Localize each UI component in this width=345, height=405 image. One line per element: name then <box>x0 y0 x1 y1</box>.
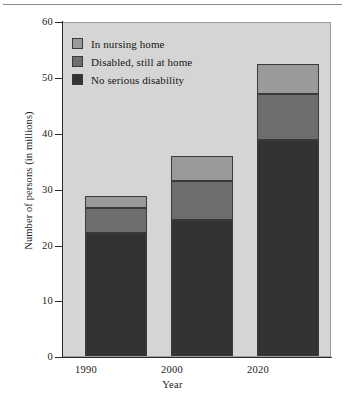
legend-swatch-icon-disabled-still-at-home <box>72 56 83 67</box>
legend-swatch-icon-no-serious-disability <box>72 74 83 85</box>
bar-segment[interactable] <box>257 140 319 356</box>
legend-swatch-icon-in-nursing-home <box>72 38 83 49</box>
bar-segment[interactable] <box>257 64 319 94</box>
bar-1990[interactable] <box>85 196 147 356</box>
bar-2000[interactable] <box>171 156 233 356</box>
legend-item-no-serious-disability[interactable]: No serious disability <box>72 71 252 88</box>
legend-label-no-serious-disability: No serious disability <box>91 74 184 86</box>
bar-segment[interactable] <box>85 233 147 356</box>
y-tick-mark <box>55 134 63 135</box>
y-tick-mark <box>55 357 63 358</box>
plot-area: In nursing home Disabled, still at home … <box>63 22 331 357</box>
bar-segment[interactable] <box>171 181 233 220</box>
y-tick-mark <box>55 22 63 23</box>
y-tick-mark <box>55 78 63 79</box>
bar-segment[interactable] <box>85 196 147 208</box>
bar-2020[interactable] <box>257 64 319 356</box>
bar-segment[interactable] <box>171 220 233 356</box>
x-axis-title: Year <box>0 379 345 390</box>
legend-label-in-nursing-home: In nursing home <box>91 38 165 50</box>
x-tick-label-2000: 2000 <box>137 364 207 375</box>
bar-segment[interactable] <box>85 208 147 233</box>
legend-label-disabled-still-at-home: Disabled, still at home <box>91 56 192 68</box>
x-axis-line <box>62 357 332 358</box>
legend-item-in-nursing-home[interactable]: In nursing home <box>72 35 252 52</box>
y-axis-title: Number of persons (in millions) <box>23 61 34 301</box>
top-divider-rule <box>3 4 342 5</box>
y-tick-label-0: 0 <box>13 352 53 362</box>
y-tick-mark <box>55 301 63 302</box>
x-tick-label-2020: 2020 <box>223 364 293 375</box>
x-tick-label-1990: 1990 <box>51 364 121 375</box>
bar-segment[interactable] <box>257 94 319 140</box>
bar-segment[interactable] <box>171 156 233 182</box>
figure: In nursing home Disabled, still at home … <box>0 0 345 405</box>
chart-legend: In nursing home Disabled, still at home … <box>72 35 252 89</box>
legend-item-disabled-still-at-home[interactable]: Disabled, still at home <box>72 53 252 70</box>
y-tick-mark <box>55 190 63 191</box>
y-tick-mark <box>55 246 63 247</box>
y-tick-label-60: 60 <box>13 17 53 27</box>
